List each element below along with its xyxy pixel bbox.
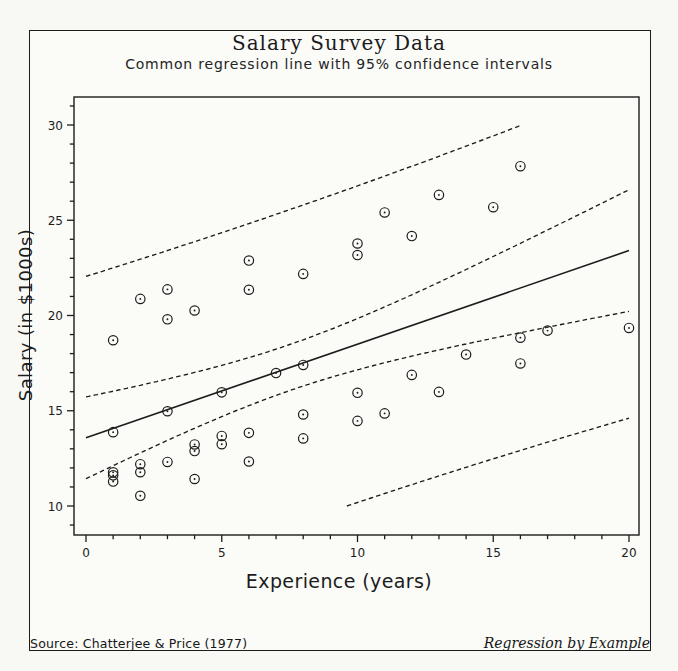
data-point-dot [465, 354, 467, 356]
data-point-dot [194, 310, 196, 312]
data-point-dot [357, 392, 359, 394]
x-tick-label: 10 [350, 546, 365, 560]
y-tick-label: 10 [48, 500, 63, 514]
confidence-band-upper [86, 190, 629, 397]
data-point-dot [519, 165, 521, 167]
x-tick-label: 5 [218, 546, 226, 560]
data-point-dot [628, 327, 630, 329]
data-point-dot [139, 495, 141, 497]
data-point-dot [221, 435, 223, 437]
data-point-dot [411, 374, 413, 376]
credit-note: Regression by Example [484, 635, 650, 651]
y-tick-label: 15 [48, 404, 63, 418]
y-tick-label: 20 [48, 309, 63, 323]
data-point-dot [384, 412, 386, 414]
y-tick-label: 30 [48, 119, 63, 133]
data-point-dot [248, 432, 250, 434]
source-note: Source: Chatterjee & Price (1977) [30, 636, 247, 651]
data-point-dot [112, 481, 114, 483]
data-point-dot [194, 478, 196, 480]
data-point-dot [221, 443, 223, 445]
data-point-dot [194, 450, 196, 452]
data-point-dot [112, 471, 114, 473]
data-point-dot [167, 410, 169, 412]
data-point-dot [357, 420, 359, 422]
data-point-dot [112, 431, 114, 433]
prediction-band-lower [347, 418, 629, 506]
data-point-dot [139, 463, 141, 465]
data-point-dot [302, 414, 304, 416]
data-point-dot [411, 235, 413, 237]
x-axis-title: Experience (years) [0, 570, 678, 592]
data-point-dot [438, 194, 440, 196]
data-point-dot [221, 391, 223, 393]
data-point-dot [167, 318, 169, 320]
regression-line [86, 251, 629, 438]
data-point-dot [384, 211, 386, 213]
data-point-dot [519, 337, 521, 339]
data-point-dot [302, 273, 304, 275]
data-point-dot [357, 243, 359, 245]
data-point-dot [194, 443, 196, 445]
data-point-dot [112, 474, 114, 476]
x-tick-label: 0 [82, 546, 90, 560]
x-tick-label: 15 [486, 546, 501, 560]
data-point-dot [248, 289, 250, 291]
prediction-band-upper [86, 125, 522, 276]
x-tick-label: 20 [621, 546, 636, 560]
data-point-dot [167, 461, 169, 463]
data-point-dot [302, 437, 304, 439]
data-point-dot [519, 362, 521, 364]
plot-frame [74, 97, 639, 535]
confidence-band-lower [86, 311, 629, 478]
data-point-dot [492, 206, 494, 208]
data-point-dot [139, 471, 141, 473]
data-point-dot [112, 339, 114, 341]
data-point-dot [139, 298, 141, 300]
data-point-dot [167, 288, 169, 290]
data-point-dot [248, 461, 250, 463]
y-tick-label: 25 [48, 214, 63, 228]
data-point-dot [438, 391, 440, 393]
data-point-dot [302, 364, 304, 366]
data-point-dot [275, 372, 277, 374]
data-point-dot [248, 260, 250, 262]
y-axis-title-text: Salary (in $1000s) [15, 229, 36, 401]
data-point-dot [547, 330, 549, 332]
data-point-dot [357, 254, 359, 256]
